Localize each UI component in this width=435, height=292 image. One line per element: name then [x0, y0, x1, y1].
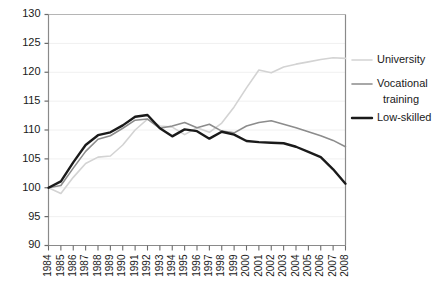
x-axis-tick-label: 2006 — [314, 254, 325, 277]
x-axis-tick-label: 2001 — [253, 254, 264, 277]
x-axis-tick-label: 2002 — [265, 254, 276, 277]
x-axis-tick-label: 1989 — [104, 254, 115, 277]
x-axis-tick-label: 1993 — [154, 254, 165, 277]
x-axis-tick-label: 1987 — [79, 254, 90, 277]
gridlines — [49, 15, 346, 217]
series-lines — [49, 58, 346, 194]
x-axis-tick-label: 1984 — [42, 254, 53, 277]
x-axis-tick-label: 2007 — [327, 254, 338, 277]
chart-legend: UniversityVocationaltrainingLow-skilled — [352, 53, 431, 123]
x-axis-tick-label: 1988 — [92, 254, 103, 277]
x-axis-tick-label: 2000 — [240, 254, 251, 277]
legend-label-low-skilled: Low-skilled — [377, 111, 431, 123]
series-line-low-skilled — [49, 115, 346, 188]
legend-label-vocational-training-line2: training — [383, 93, 419, 105]
legend-label-vocational-training: Vocational — [377, 77, 428, 89]
series-line-vocational-training — [49, 119, 346, 188]
y-axis-tick-label: 90 — [28, 238, 40, 250]
x-axis-tick-label: 2005 — [302, 254, 313, 277]
line-chart: 9095100105110115120125130 19841985198619… — [0, 0, 435, 292]
x-axis-tick-label: 1996 — [191, 254, 202, 277]
x-axis-tick-label: 1998 — [215, 254, 226, 277]
y-axis-tick-label: 105 — [22, 152, 40, 164]
x-axis-tick-label: 2008 — [339, 254, 350, 277]
y-axis-tick-label: 125 — [22, 36, 40, 48]
y-axis-tick-label: 115 — [23, 94, 41, 106]
x-axis-ticks — [49, 246, 346, 251]
x-axis-tick-label: 1992 — [141, 254, 152, 277]
legend-label-university: University — [377, 53, 426, 65]
x-axis-tick-label: 2004 — [290, 254, 301, 277]
x-axis-tick-label: 1999 — [228, 254, 239, 277]
x-axis-tick-label: 1990 — [116, 254, 127, 277]
chart-container: 9095100105110115120125130 19841985198619… — [0, 0, 435, 292]
x-axis-tick-label: 1985 — [55, 254, 66, 277]
x-axis-tick-label: 1997 — [203, 254, 214, 277]
x-axis-tick-label: 1995 — [178, 254, 189, 277]
x-axis-tick-label: 2003 — [277, 254, 288, 277]
y-axis-tick-labels: 9095100105110115120125130 — [22, 7, 40, 250]
x-axis-tick-label: 1991 — [129, 254, 140, 277]
y-axis-tick-label: 95 — [28, 210, 40, 222]
x-axis-tick-label: 1986 — [67, 254, 78, 277]
y-axis-tick-label: 100 — [22, 181, 40, 193]
x-axis-tick-label: 1994 — [166, 254, 177, 277]
y-axis-tick-label: 130 — [22, 7, 40, 19]
y-axis-tick-label: 110 — [23, 123, 41, 135]
y-axis-tick-label: 120 — [22, 65, 40, 77]
series-line-university — [49, 58, 346, 194]
x-axis-tick-labels: 1984198519861987198819891990199119921993… — [42, 254, 350, 277]
